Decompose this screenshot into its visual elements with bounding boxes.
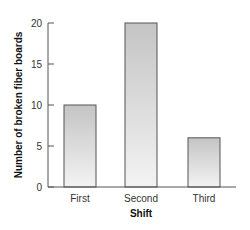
x-tick-label: Third bbox=[193, 193, 216, 204]
y-tick-label: 20 bbox=[31, 18, 43, 29]
x-axis-title: Shift bbox=[130, 208, 153, 219]
bar-second bbox=[125, 23, 157, 187]
y-axis-title: Number of broken fiber boards bbox=[13, 31, 24, 178]
y-tick-label: 10 bbox=[31, 100, 43, 111]
y-tick-label: 5 bbox=[36, 141, 42, 152]
bars-group bbox=[64, 23, 220, 187]
y-tick-label: 15 bbox=[31, 59, 43, 70]
bar-third bbox=[188, 138, 220, 187]
x-axis: FirstSecondThird bbox=[48, 187, 236, 204]
bar-first bbox=[64, 105, 96, 187]
y-tick-label: 0 bbox=[36, 182, 42, 193]
x-tick-label: Second bbox=[124, 193, 158, 204]
y-axis: 05101520 bbox=[31, 18, 54, 193]
bar-chart: 05101520 FirstSecondThird Number of brok… bbox=[0, 0, 250, 230]
x-tick-label: First bbox=[70, 193, 90, 204]
